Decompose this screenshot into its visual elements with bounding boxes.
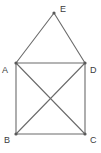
vertex-e <box>52 11 55 14</box>
edge-group <box>16 13 85 134</box>
vertex-group <box>14 11 86 135</box>
edge-e-d <box>54 13 85 63</box>
vertex-a <box>14 61 17 64</box>
edge-a-e <box>16 13 54 63</box>
vertex-label-e: E <box>60 5 66 14</box>
vertex-label-a: A <box>2 66 8 75</box>
vertex-label-c: C <box>90 136 97 145</box>
vertex-label-d: D <box>90 66 97 75</box>
graph-svg <box>0 0 101 153</box>
vertex-d <box>83 61 86 64</box>
vertex-b <box>14 132 17 135</box>
vertex-c <box>83 132 86 135</box>
vertex-label-b: B <box>4 136 10 145</box>
diagram-canvas: A B C D E <box>0 0 101 153</box>
